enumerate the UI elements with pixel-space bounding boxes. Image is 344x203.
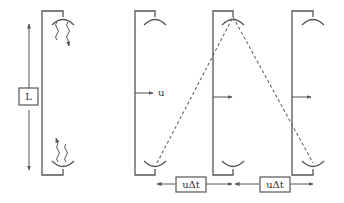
moving-clock-3 (292, 11, 324, 175)
bottom-mirror-icon (52, 161, 74, 167)
bottom-mirror-icon (144, 161, 166, 167)
light-path (157, 17, 313, 163)
light-clock-diagram: L u uΔt uΔt (0, 0, 344, 203)
moving-clock-1: u (135, 11, 166, 175)
top-mirror-icon (144, 20, 166, 26)
displacement-label: uΔt (182, 179, 200, 190)
displacement-2: uΔt (235, 177, 313, 192)
length-label: L (25, 91, 32, 102)
wave-arrow-icon (67, 22, 70, 46)
wave-arrow-icon (56, 138, 60, 162)
displacement-label: uΔt (266, 179, 284, 190)
displacement-1: uΔt (157, 177, 232, 192)
wave-icon (65, 144, 68, 162)
bottom-mirror-icon (222, 161, 244, 167)
stationary-clock (42, 11, 74, 175)
wave-icon (56, 22, 59, 40)
length-dimension: L (19, 24, 38, 170)
top-mirror-icon (222, 20, 244, 26)
top-mirror-icon (302, 20, 324, 26)
diagram-canvas: L u uΔt uΔt (0, 0, 344, 203)
bottom-mirror-icon (302, 161, 324, 167)
velocity-label: u (158, 87, 165, 98)
moving-clock-2 (213, 11, 244, 175)
